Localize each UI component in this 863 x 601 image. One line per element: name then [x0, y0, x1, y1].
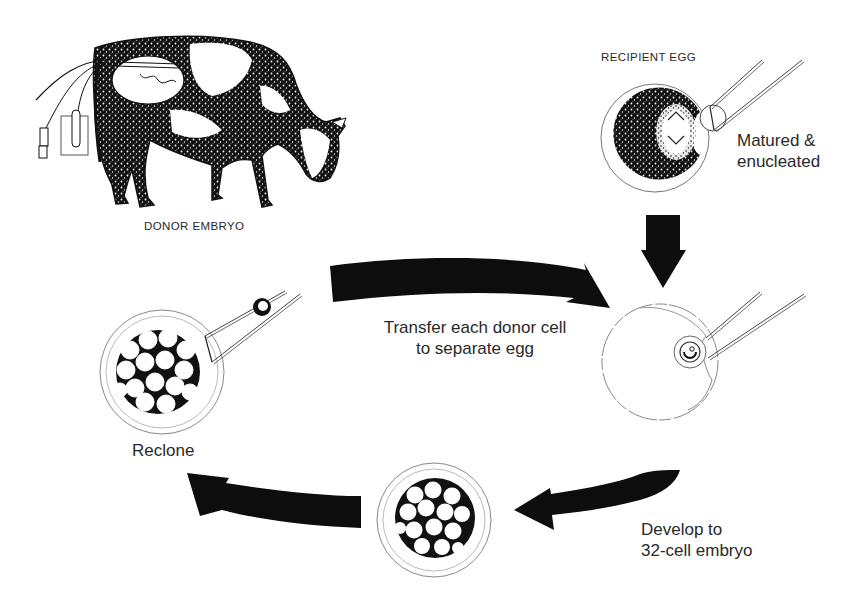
injection-pipette-icon [706, 292, 806, 360]
transfer-pipette-icon [205, 291, 302, 364]
reclone-embryo-icon [100, 291, 302, 434]
recipient-egg-label: RECIPIENT EGG [601, 51, 696, 63]
recipient-egg-icon [601, 60, 804, 192]
transfer-label-line2: to separate egg [330, 339, 620, 359]
matured-label-line1: Matured & [737, 131, 815, 151]
cloning-diagram: DONOR EMBRYO RECIPIENT EGG Matured & enu… [0, 0, 863, 601]
nuclear-transfer-egg-icon [602, 292, 806, 420]
cow-icon [36, 36, 346, 207]
develop-label-line1: Develop to [641, 520, 722, 540]
donor-embryo-label: DONOR EMBRYO [144, 220, 244, 232]
reclone-label: Reclone [132, 441, 194, 461]
reclone-arrow-icon [187, 473, 361, 528]
down-arrow-icon [641, 215, 686, 288]
develop-label-line2: 32-cell embryo [641, 541, 753, 561]
transfer-label-line1: Transfer each donor cell [330, 318, 620, 338]
transfer-arrow-icon [330, 258, 610, 308]
embryo-32-cell-icon [377, 463, 491, 577]
matured-label-line2: enucleated [737, 152, 820, 172]
